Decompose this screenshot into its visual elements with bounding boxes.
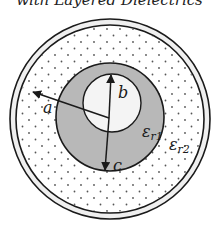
- coax-diagram: a b c εr1 εr2: [0, 0, 219, 230]
- inner-conductor: [83, 74, 141, 132]
- label-a: a: [43, 98, 53, 117]
- label-b: b: [118, 83, 128, 102]
- label-c: c: [113, 156, 122, 175]
